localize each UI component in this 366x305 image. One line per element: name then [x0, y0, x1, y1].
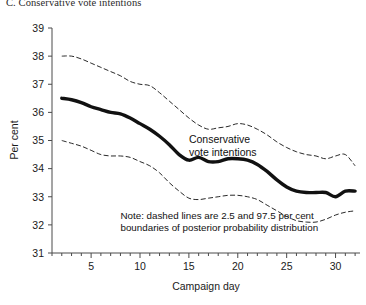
chart-plot-area: 313233343536373839 51015202530 Campaign … [0, 0, 366, 305]
x-axis: 51015202530 [52, 253, 360, 272]
x-axis-tick-label: 10 [134, 260, 146, 272]
annotation-line: Conservative [189, 133, 250, 145]
chart-figure: C. Conservative vote intentions 31323334… [0, 0, 366, 305]
annotation-line: boundaries of posterior probability dist… [120, 222, 318, 233]
series-inline-label: Conservativevote intentions [189, 133, 257, 158]
x-axis-tick-label: 15 [183, 260, 195, 272]
x-axis-title: Campaign day [172, 280, 240, 292]
y-axis-title: Per cent [8, 120, 20, 159]
annotation-line: Note: dashed lines are 2.5 and 97.5 per … [120, 210, 314, 221]
x-axis-tick-label: 20 [232, 260, 244, 272]
y-axis-tick-label: 39 [32, 22, 44, 34]
y-axis-tick-label: 32 [32, 219, 44, 231]
chart-note: Note: dashed lines are 2.5 and 97.5 per … [120, 210, 318, 233]
y-axis-tick-label: 36 [32, 106, 44, 118]
x-axis-tick-label: 25 [281, 260, 293, 272]
y-axis-tick-label: 35 [32, 134, 44, 146]
y-axis-tick-label: 38 [32, 50, 44, 62]
x-axis-tick-label: 5 [88, 260, 94, 272]
y-axis-tick-label: 31 [32, 247, 44, 259]
y-axis-tick-label: 33 [32, 191, 44, 203]
y-axis-tick-label: 34 [32, 162, 44, 174]
annotation-line: vote intentions [189, 146, 257, 158]
y-axis: 313233343536373839 [32, 22, 52, 259]
x-axis-tick-label: 30 [330, 260, 342, 272]
y-axis-tick-label: 37 [32, 78, 44, 90]
